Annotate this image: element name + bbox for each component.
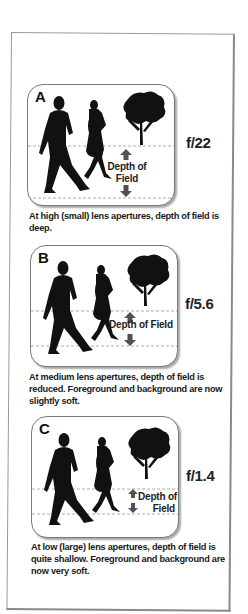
depth-of-field-label: Depth of Field — [137, 491, 177, 515]
panel-letter: B — [38, 249, 49, 266]
depth-of-field-label: Depth of Field — [104, 161, 150, 185]
panel-b-illustration — [31, 246, 177, 366]
walking-man-icon — [43, 261, 93, 354]
panel-a-illustration — [28, 85, 174, 205]
caption: At high (small) lens apertures, depth of… — [29, 210, 225, 234]
walking-man-icon — [39, 96, 90, 193]
panel-letter: A — [35, 88, 46, 105]
panel-c: C Depth of Field — [31, 416, 179, 538]
aperture-label: f/1.4 — [186, 467, 215, 484]
panel-letter: C — [39, 420, 50, 437]
arrow-down-icon — [120, 185, 132, 197]
tree-icon — [127, 254, 169, 306]
walking-man-icon — [44, 433, 94, 525]
panel-c-illustration — [32, 417, 178, 537]
walking-woman-icon — [92, 437, 120, 513]
caption: At low (large) lens apertures, depth of … — [31, 541, 227, 577]
panel-a: A Depth of Field — [27, 84, 175, 206]
tree-icon — [128, 427, 170, 479]
aperture-label: f/22 — [186, 134, 211, 151]
aperture-label: f/5.6 — [185, 295, 214, 312]
panel-b: B Depth of Field — [30, 245, 178, 367]
tree-icon — [123, 91, 165, 145]
arrow-down-icon — [124, 334, 136, 346]
arrow-up-icon — [120, 149, 132, 160]
caption: At medium lens apertures, depth of field… — [29, 371, 225, 407]
depth-of-field-label: Depth of Field — [109, 319, 175, 331]
